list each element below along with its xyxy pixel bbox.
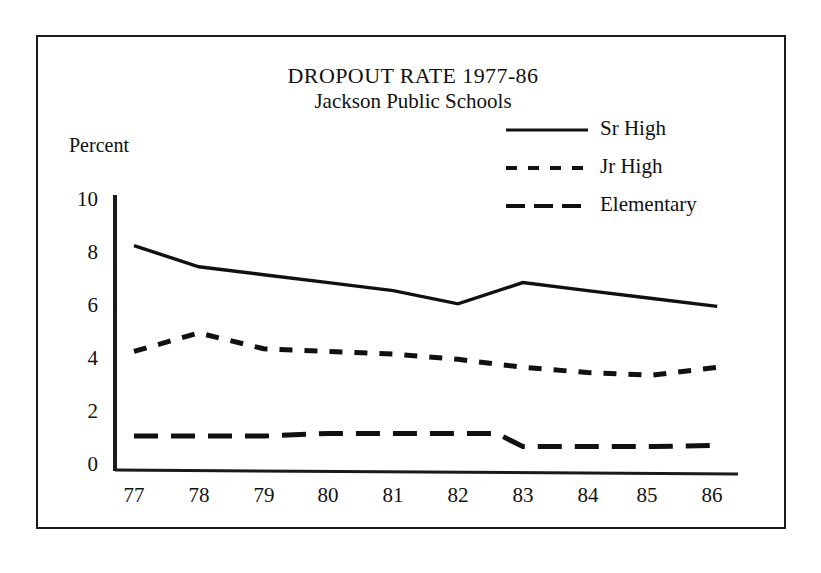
series-line-sr-high	[134, 246, 717, 307]
plot-area	[38, 37, 788, 531]
series-line-elementary	[134, 433, 717, 446]
chart-frame-box: DROPOUT RATE 1977-86 Jackson Public Scho…	[36, 35, 786, 529]
x-axis-line	[115, 470, 738, 474]
series-line-jr-high	[134, 333, 717, 375]
figure-canvas: DROPOUT RATE 1977-86 Jackson Public Scho…	[0, 0, 821, 573]
